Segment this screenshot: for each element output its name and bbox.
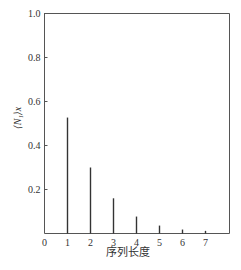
y-axis-label: ⟨N₁⟩x (12, 106, 23, 129)
x-tick-label: 1 (65, 237, 70, 248)
y-tick-label: 0.8 (28, 52, 41, 63)
bars (68, 118, 206, 234)
chart: 0.20.40.60.81.0 01234567 序列长度 ⟨N₁⟩x (0, 0, 241, 270)
y-tick-label: 0.4 (28, 140, 41, 151)
x-axis-label: 序列长度 (106, 245, 150, 259)
y-tick-label: 0.6 (28, 96, 41, 107)
x-tick-label: 7 (203, 237, 208, 248)
x-tick-label: 6 (180, 237, 185, 248)
x-tick-label: 2 (88, 237, 93, 248)
y-tick-label: 1.0 (28, 8, 41, 19)
x-tick-label: 5 (157, 237, 162, 248)
x-tick-label: 0 (42, 237, 47, 248)
y-tick-label: 0.2 (28, 184, 41, 195)
plot-frame (45, 13, 230, 234)
